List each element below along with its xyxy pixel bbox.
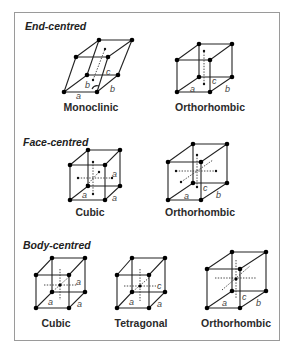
axis-label-b: b — [256, 298, 261, 308]
axis-label-a2: a — [112, 193, 117, 203]
axis-label-a: a — [129, 297, 134, 307]
axis-label-a: a — [190, 84, 195, 94]
axis-label-c: c — [242, 292, 247, 302]
axis-label-a3: a — [112, 169, 117, 179]
axis-label-b2: b — [110, 84, 115, 94]
axis-label-c: c — [106, 67, 111, 77]
end-centred-monoclinic-lattice: a b b c — [62, 38, 135, 101]
axis-label-c: c — [212, 76, 217, 86]
axis-label-a: a — [48, 297, 53, 307]
axis-label-a2: a — [157, 299, 162, 309]
body-centred-tetragonal-lattice: a a c — [115, 256, 168, 311]
axis-label-b: b — [216, 190, 221, 200]
axis-label-a: a — [82, 190, 87, 200]
axis-label-a3: a — [76, 277, 81, 287]
axis-label-b: b — [225, 84, 230, 94]
body-centred-orthorhombic-lattice: a b c — [205, 250, 269, 311]
axis-label-a: a — [76, 91, 81, 101]
axis-label-c: c — [203, 183, 208, 193]
face-centred-cubic-lattice: a a a — [68, 148, 123, 203]
axis-label-b: b — [85, 80, 90, 90]
face-centred-orthorhombic-lattice: a b c — [166, 142, 230, 203]
axis-label-a: a — [222, 298, 227, 308]
lattice-drawings: a b b c a b c — [0, 0, 291, 348]
end-centred-orthorhombic-lattice: a b c — [175, 42, 235, 95]
axis-label-a2: a — [77, 299, 82, 309]
axis-label-c: c — [157, 281, 162, 291]
axis-label-a: a — [184, 191, 189, 201]
body-centred-cubic-lattice: a a a — [34, 256, 88, 311]
